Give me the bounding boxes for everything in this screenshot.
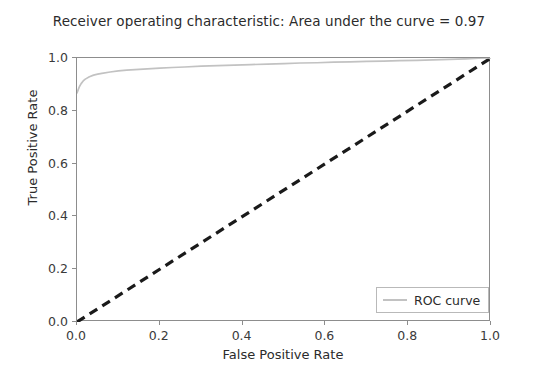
x-tick-label: 0.8 — [397, 328, 417, 343]
y-tick-mark — [72, 215, 76, 216]
legend-box: ROC curve — [376, 287, 489, 313]
legend-label-roc-curve: ROC curve — [414, 293, 480, 308]
plot-area — [76, 57, 490, 321]
x-tick-label: 0.6 — [314, 328, 334, 343]
roc-chart-figure: Receiver operating characteristic: Area … — [0, 0, 538, 374]
y-tick-label: 1.0 — [26, 50, 68, 65]
chart-title: Receiver operating characteristic: Area … — [0, 13, 538, 29]
y-tick-mark — [72, 268, 76, 269]
x-tick-mark — [159, 321, 160, 325]
y-tick-mark — [72, 57, 76, 58]
roc-curve-line — [77, 58, 491, 93]
y-tick-label: 0.2 — [26, 261, 68, 276]
x-tick-label: 1.0 — [480, 328, 500, 343]
legend-swatch-roc-curve — [383, 299, 407, 301]
y-tick-label: 0.0 — [26, 314, 68, 329]
x-tick-mark — [490, 321, 491, 325]
chance-diagonal-line — [77, 58, 491, 322]
x-tick-mark — [407, 321, 408, 325]
x-axis-label: False Positive Rate — [76, 347, 490, 362]
x-tick-label: 0.2 — [149, 328, 169, 343]
x-tick-label: 0.0 — [66, 328, 86, 343]
y-tick-mark — [72, 110, 76, 111]
x-tick-mark — [242, 321, 243, 325]
x-tick-label: 0.4 — [232, 328, 252, 343]
x-tick-mark — [76, 321, 77, 325]
y-axis-label: True Positive Rate — [25, 68, 40, 228]
plot-svg — [77, 58, 491, 322]
x-tick-mark — [324, 321, 325, 325]
y-tick-mark — [72, 163, 76, 164]
